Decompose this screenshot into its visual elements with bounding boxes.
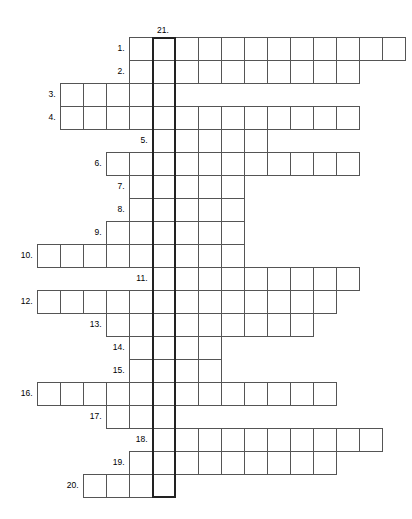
crossword-cell[interactable]: [359, 37, 383, 61]
crossword-cell[interactable]: [244, 428, 268, 452]
crossword-cell[interactable]: [129, 198, 153, 222]
crossword-cell[interactable]: [129, 405, 153, 429]
crossword-cell[interactable]: [290, 290, 314, 314]
crossword-cell[interactable]: [336, 267, 360, 291]
crossword-cell[interactable]: [175, 359, 199, 383]
crossword-cell[interactable]: [221, 428, 245, 452]
crossword-cell[interactable]: [152, 451, 176, 475]
crossword-cell[interactable]: [175, 336, 199, 360]
crossword-cell[interactable]: [244, 313, 268, 337]
crossword-cell[interactable]: [60, 83, 84, 107]
crossword-cell[interactable]: [313, 290, 337, 314]
crossword-cell[interactable]: [267, 60, 291, 84]
crossword-cell[interactable]: [221, 221, 245, 245]
crossword-cell[interactable]: [267, 37, 291, 61]
crossword-cell[interactable]: [106, 244, 130, 268]
crossword-cell[interactable]: [244, 60, 268, 84]
crossword-cell[interactable]: [106, 290, 130, 314]
crossword-cell[interactable]: [175, 198, 199, 222]
crossword-cell[interactable]: [175, 152, 199, 176]
crossword-cell[interactable]: [313, 428, 337, 452]
crossword-cell[interactable]: [244, 106, 268, 130]
crossword-cell[interactable]: [244, 267, 268, 291]
crossword-cell[interactable]: [313, 106, 337, 130]
crossword-cell[interactable]: [175, 221, 199, 245]
crossword-cell[interactable]: [313, 152, 337, 176]
crossword-cell[interactable]: [175, 451, 199, 475]
crossword-cell[interactable]: [198, 221, 222, 245]
crossword-cell[interactable]: [198, 428, 222, 452]
crossword-cell[interactable]: [244, 290, 268, 314]
crossword-cell[interactable]: [106, 152, 130, 176]
crossword-cell[interactable]: [83, 83, 107, 107]
crossword-cell[interactable]: [267, 451, 291, 475]
crossword-cell[interactable]: [83, 244, 107, 268]
crossword-cell[interactable]: [336, 37, 360, 61]
crossword-cell[interactable]: [382, 37, 406, 61]
crossword-cell[interactable]: [221, 175, 245, 199]
crossword-cell[interactable]: [290, 37, 314, 61]
crossword-cell[interactable]: [129, 336, 153, 360]
crossword-cell[interactable]: [198, 290, 222, 314]
crossword-cell[interactable]: [106, 221, 130, 245]
crossword-cell[interactable]: [290, 267, 314, 291]
crossword-cell[interactable]: [267, 106, 291, 130]
crossword-cell[interactable]: [221, 267, 245, 291]
crossword-cell[interactable]: [129, 451, 153, 475]
crossword-cell[interactable]: [336, 60, 360, 84]
crossword-cell[interactable]: [313, 267, 337, 291]
crossword-cell[interactable]: [336, 106, 360, 130]
crossword-cell[interactable]: [359, 428, 383, 452]
crossword-cell[interactable]: [129, 382, 153, 406]
crossword-cell[interactable]: [175, 382, 199, 406]
crossword-cell[interactable]: [267, 152, 291, 176]
crossword-cell[interactable]: [175, 313, 199, 337]
crossword-cell[interactable]: [152, 221, 176, 245]
crossword-cell[interactable]: [244, 451, 268, 475]
crossword-cell[interactable]: [313, 37, 337, 61]
crossword-cell[interactable]: [221, 451, 245, 475]
crossword-cell[interactable]: [267, 428, 291, 452]
crossword-cell[interactable]: [175, 428, 199, 452]
crossword-cell[interactable]: [83, 382, 107, 406]
crossword-cell[interactable]: [37, 382, 61, 406]
crossword-cell[interactable]: [221, 382, 245, 406]
crossword-cell[interactable]: [152, 37, 176, 61]
crossword-cell[interactable]: [336, 152, 360, 176]
crossword-cell[interactable]: [37, 290, 61, 314]
crossword-cell[interactable]: [198, 60, 222, 84]
crossword-cell[interactable]: [221, 244, 245, 268]
crossword-cell[interactable]: [175, 290, 199, 314]
crossword-cell[interactable]: [175, 175, 199, 199]
crossword-cell[interactable]: [152, 198, 176, 222]
crossword-cell[interactable]: [83, 106, 107, 130]
crossword-cell[interactable]: [198, 106, 222, 130]
crossword-cell[interactable]: [198, 359, 222, 383]
crossword-cell[interactable]: [221, 106, 245, 130]
crossword-cell[interactable]: [267, 313, 291, 337]
crossword-cell[interactable]: [129, 290, 153, 314]
crossword-cell[interactable]: [129, 60, 153, 84]
crossword-cell[interactable]: [152, 60, 176, 84]
crossword-cell[interactable]: [198, 129, 222, 153]
crossword-cell[interactable]: [244, 152, 268, 176]
crossword-cell[interactable]: [221, 198, 245, 222]
crossword-cell[interactable]: [83, 290, 107, 314]
crossword-cell[interactable]: [290, 428, 314, 452]
crossword-cell[interactable]: [221, 313, 245, 337]
crossword-cell[interactable]: [290, 382, 314, 406]
crossword-cell[interactable]: [198, 244, 222, 268]
crossword-cell[interactable]: [106, 106, 130, 130]
crossword-cell[interactable]: [290, 152, 314, 176]
crossword-cell[interactable]: [244, 382, 268, 406]
crossword-cell[interactable]: [221, 290, 245, 314]
crossword-cell[interactable]: [290, 313, 314, 337]
crossword-cell[interactable]: [152, 106, 176, 130]
crossword-cell[interactable]: [37, 244, 61, 268]
crossword-cell[interactable]: [198, 152, 222, 176]
crossword-cell[interactable]: [106, 382, 130, 406]
crossword-cell[interactable]: [152, 428, 176, 452]
crossword-cell[interactable]: [267, 267, 291, 291]
crossword-cell[interactable]: [60, 382, 84, 406]
crossword-cell[interactable]: [290, 451, 314, 475]
